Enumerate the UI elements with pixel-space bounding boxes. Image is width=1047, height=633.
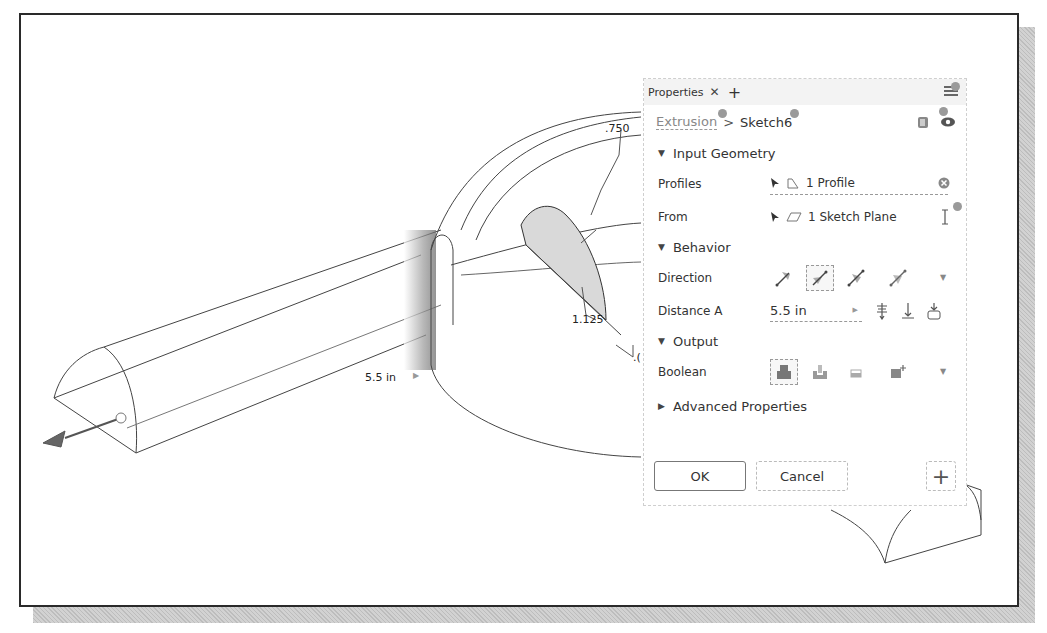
offset-start-icon[interactable] [940,208,950,226]
add-tab-button[interactable]: + [728,83,741,102]
direction-row: Direction ▼ [644,261,966,294]
radius-dimension-label[interactable]: .750 [605,122,630,135]
distance-a-arrow-icon[interactable]: ▶ [853,306,858,314]
breadcrumb: Extrusion > Sketch6 [644,105,966,139]
direction-flipped-button[interactable] [806,265,834,291]
direction-asymmetric-button[interactable] [884,265,912,291]
direction-dropdown-icon[interactable]: ▼ [940,273,946,282]
select-cursor-icon [770,211,780,223]
cancel-button[interactable]: Cancel [756,461,848,491]
expand-triangle-icon: ▼ [658,148,665,158]
boolean-dropdown-icon[interactable]: ▼ [940,367,946,376]
panel-footer: OK Cancel + [654,461,956,491]
section-behavior[interactable]: ▼ Behavior [644,233,966,261]
section-title: Input Geometry [673,146,776,161]
profiles-value: 1 Profile [806,176,855,190]
direction-symmetric-icon [846,268,866,288]
distance-to-icon[interactable] [900,302,916,320]
distance-a-value: 5.5 in [770,303,807,318]
intersect-icon [847,363,865,381]
collapse-triangle-icon: ▶ [658,401,665,411]
partial-dimension-label: .( [633,351,641,364]
select-cursor-icon [770,177,780,189]
visibility-eye-icon[interactable] [940,116,956,128]
boolean-join-button[interactable] [770,359,798,385]
direction-flipped-icon [810,268,830,288]
indicator-dot [790,109,799,118]
direction-symmetric-button[interactable] [842,265,870,291]
distance-arrow-icon[interactable]: ▶ [413,371,419,380]
section-title: Output [673,334,718,349]
from-row: From 1 Sketch Plane [644,200,966,233]
direction-asymmetric-icon [888,268,908,288]
indicator-dot [939,107,948,116]
tab-properties[interactable]: Properties ✕ [648,85,720,99]
from-selector[interactable]: 1 Sketch Plane [770,206,948,228]
profiles-label: Profiles [658,177,770,191]
cut-icon [811,363,829,381]
boolean-new-solid-button[interactable] [884,359,912,385]
section-advanced-properties[interactable]: ▶ Advanced Properties [644,392,966,420]
breadcrumb-extrusion[interactable]: Extrusion [656,114,717,130]
expand-triangle-icon: ▼ [658,242,665,252]
boolean-cut-button[interactable] [806,359,834,385]
panel-tab-bar: Properties ✕ + [644,79,966,105]
new-solid-icon [889,363,907,381]
tab-label: Properties [648,86,704,99]
section-output[interactable]: ▼ Output [644,327,966,355]
boolean-row: Boolean ▼ [644,355,966,388]
profiles-row: Profiles 1 Profile [644,167,966,200]
sketch-edit-icon[interactable] [916,114,930,130]
boolean-intersect-button[interactable] [842,359,870,385]
indicator-dot [951,82,960,91]
indicator-dot [718,109,727,118]
profile-icon [786,177,800,189]
add-button[interactable]: + [926,461,956,491]
distance-through-all-icon[interactable] [874,302,890,320]
screenshot-frame: 5.5 in ▶ .750 1.125 .( Properties ✕ + Ex… [19,13,1019,607]
from-label: From [658,210,770,224]
direction-label: Direction [658,271,770,285]
properties-panel: Properties ✕ + Extrusion > Sketch6 ▼ Inp… [643,78,967,506]
distance-between-icon[interactable] [926,302,942,320]
offset-dimension-label[interactable]: 1.125 [572,313,604,326]
clear-selection-icon[interactable] [938,177,950,189]
close-icon[interactable]: ✕ [710,85,720,99]
direction-default-button[interactable] [770,265,798,291]
indicator-dot [953,202,962,211]
section-title: Behavior [673,240,731,255]
boolean-label: Boolean [658,365,770,379]
distance-a-label: Distance A [658,304,770,318]
distance-dimension-label[interactable]: 5.5 in [365,371,396,384]
profiles-selector[interactable]: 1 Profile [770,172,948,195]
ok-button[interactable]: OK [654,461,746,491]
breadcrumb-sketch: Sketch6 [740,115,792,130]
expand-triangle-icon: ▼ [658,336,665,346]
direction-default-icon [774,268,794,288]
join-icon [775,363,793,381]
distance-a-input[interactable]: 5.5 in ▶ [770,299,862,322]
sketch-plane-icon [786,211,802,223]
section-title: Advanced Properties [673,399,807,414]
distance-a-row: Distance A 5.5 in ▶ [644,294,966,327]
section-input-geometry[interactable]: ▼ Input Geometry [644,139,966,167]
from-value: 1 Sketch Plane [808,210,897,224]
